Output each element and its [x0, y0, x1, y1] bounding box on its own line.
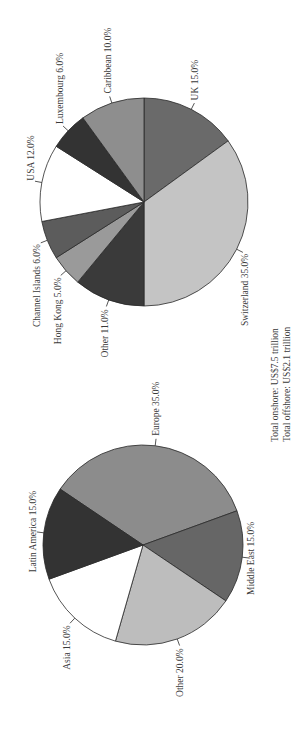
leader-line: [110, 96, 112, 103]
totals-note: Total onshore: US$7.5 trillion Total off…: [270, 326, 292, 442]
slice-label: Asia 15.0%: [62, 625, 72, 669]
total-offshore-text: Total offshore: US$2.1 trillion: [282, 326, 292, 442]
leader-line: [155, 439, 156, 446]
leader-line: [237, 249, 243, 252]
pie-charts-figure: UK 15.0%Switzerland 35.0%Other 11.0%Hong…: [0, 0, 300, 742]
total-onshore-text: Total onshore: US$7.5 trillion: [270, 328, 280, 442]
leader-line: [70, 618, 75, 623]
slice-label: Latin America 15.0%: [28, 491, 38, 573]
leader-line: [61, 271, 66, 276]
slice-label: Hong Kong 5.0%: [53, 277, 63, 344]
slice-label: Other 20.0%: [175, 648, 185, 697]
leader-line: [177, 639, 179, 646]
leader-line: [191, 103, 194, 109]
slice-label: Channel Islands 6.0%: [32, 244, 42, 327]
leader-line: [41, 240, 48, 243]
offshore-pie-chart: UK 15.0%Switzerland 35.0%Other 11.0%Hong…: [26, 28, 250, 358]
slice-label: Luxembourg 6.0%: [55, 53, 65, 124]
slice-label: Switzerland 35.0%: [240, 254, 250, 326]
slice-label: Other 11.0%: [100, 309, 110, 357]
leader-line: [63, 126, 68, 131]
slice-label: UK 15.0%: [190, 60, 200, 101]
leader-line: [106, 300, 108, 307]
slice-label: Caribbean 10.0%: [103, 28, 113, 94]
slice-label: USA 12.0%: [26, 135, 36, 180]
slice-label: Middle East 15.0%: [246, 522, 256, 595]
slice-label: Europe 35.0%: [151, 381, 161, 435]
onshore-pie-chart: Europe 35.0%Middle East 15.0%Other 20.0%…: [28, 381, 256, 697]
